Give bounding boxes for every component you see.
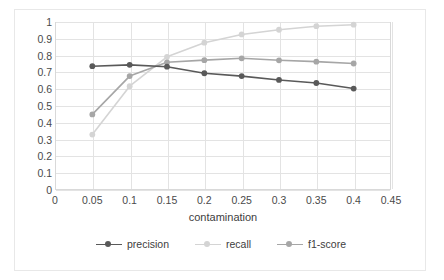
legend-label: recall: [226, 238, 251, 250]
vertical-gridline: [392, 22, 393, 189]
x-tick-label: 0: [35, 194, 75, 206]
legend-item-f1-score[interactable]: f1-score: [277, 238, 346, 250]
data-point-precision: [89, 63, 95, 69]
y-tick-label: 1: [18, 17, 52, 27]
data-point-f1-score: [127, 73, 133, 79]
data-point-f1-score: [201, 57, 207, 63]
data-point-f1-score: [239, 55, 245, 61]
data-point-recall: [313, 23, 319, 29]
data-point-precision: [164, 64, 170, 70]
legend-swatch-icon: [195, 239, 221, 249]
legend-label: f1-score: [308, 238, 346, 250]
data-point-recall: [351, 22, 357, 28]
data-point-f1-score: [276, 57, 282, 63]
y-tick-label: 0.4: [18, 118, 52, 128]
y-tick-label: 0.9: [18, 34, 52, 44]
x-tick-label: 0.45: [371, 194, 411, 206]
data-point-precision: [201, 70, 207, 76]
x-axis-title: contamination: [55, 211, 391, 223]
chart-container: 00.10.20.30.40.50.60.70.80.91 00.050.10.…: [14, 9, 426, 271]
legend-label: precision: [127, 238, 169, 250]
data-point-precision: [351, 86, 357, 92]
legend-swatch-icon: [96, 239, 122, 249]
horizontal-gridline: [56, 190, 390, 191]
legend-swatch-icon: [277, 239, 303, 249]
y-axis-tick-labels: 00.10.20.30.40.50.60.70.80.91: [15, 22, 52, 190]
data-point-recall: [276, 27, 282, 33]
legend-item-precision[interactable]: precision: [96, 238, 169, 250]
data-point-f1-score: [351, 61, 357, 67]
data-point-recall: [239, 32, 245, 38]
data-point-f1-score: [313, 59, 319, 65]
data-point-recall: [201, 40, 207, 46]
x-tick-label: 0.05: [72, 194, 112, 206]
x-tick-label: 0.3: [259, 194, 299, 206]
legend-item-recall[interactable]: recall: [195, 238, 251, 250]
chart-legend: precisionrecallf1-score: [15, 238, 427, 250]
chart-series-layer: [55, 22, 391, 190]
series-line-recall: [92, 25, 353, 135]
data-point-recall: [89, 132, 95, 138]
data-point-precision: [239, 73, 245, 79]
x-tick-label: 0.15: [147, 194, 187, 206]
y-tick-label: 0.2: [18, 151, 52, 161]
data-point-f1-score: [89, 112, 95, 118]
y-tick-label: 0.5: [18, 101, 52, 111]
y-tick-label: 0.8: [18, 51, 52, 61]
data-point-precision: [313, 80, 319, 86]
x-tick-label: 0.1: [110, 194, 150, 206]
y-tick-label: 0.7: [18, 67, 52, 77]
data-point-precision: [276, 77, 282, 83]
data-point-recall: [127, 83, 133, 89]
x-tick-label: 0.35: [296, 194, 336, 206]
x-axis-tick-labels: 00.050.10.150.20.250.30.350.40.45: [55, 194, 391, 208]
data-point-precision: [127, 62, 133, 68]
chart-plot-wrapper: 00.10.20.30.40.50.60.70.80.91 00.050.10.…: [15, 10, 427, 272]
y-tick-label: 0.3: [18, 135, 52, 145]
x-tick-label: 0.2: [184, 194, 224, 206]
data-point-recall: [164, 54, 170, 60]
y-tick-label: 0.6: [18, 84, 52, 94]
x-tick-label: 0.25: [222, 194, 262, 206]
x-tick-label: 0.4: [334, 194, 374, 206]
y-tick-label: 0.1: [18, 168, 52, 178]
